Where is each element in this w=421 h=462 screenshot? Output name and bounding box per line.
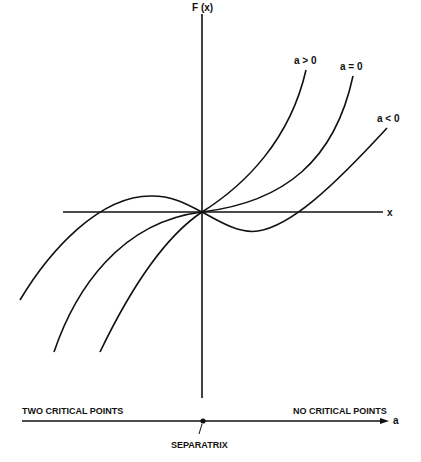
- label-a-zero: a = 0: [340, 61, 363, 72]
- y-axis-label: F (x): [192, 2, 213, 13]
- curve-a-positive: [100, 70, 306, 352]
- region-no-critical-points: NO CRITICAL POINTS: [293, 406, 387, 416]
- label-a-negative: a < 0: [377, 113, 400, 124]
- separatrix-point: [200, 418, 205, 423]
- region-two-critical-points: TWO CRITICAL POINTS: [22, 406, 123, 416]
- curve-a-negative: [20, 128, 387, 300]
- separatrix-label: SEPARATRIX: [171, 440, 228, 450]
- parameter-axis-label: a: [393, 415, 399, 426]
- label-a-positive: a > 0: [294, 55, 317, 66]
- parameter-axis-arrow-icon: [380, 418, 389, 424]
- x-axis-label: x: [387, 207, 393, 218]
- cubic-family-diagram: F (x) x a > 0 a = 0 a < 0 a TWO CRITICAL…: [0, 0, 421, 462]
- separatrix-leader: [199, 424, 202, 434]
- curve-a-zero: [54, 76, 353, 352]
